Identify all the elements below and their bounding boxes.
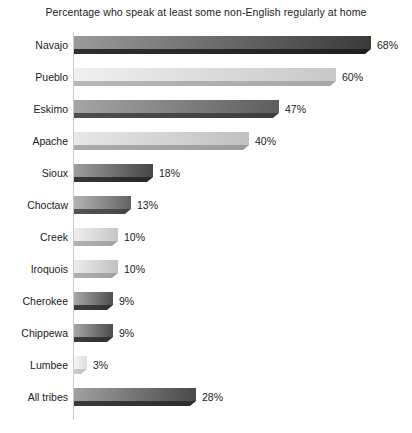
category-label: All tribes	[0, 390, 68, 404]
plot-area: Navajo68%Pueblo60%Eskimo47%Apache40%Siou…	[0, 30, 412, 430]
value-label: 9%	[119, 327, 134, 340]
category-label: Cherokee	[0, 294, 68, 308]
bar-row: All tribes28%	[0, 388, 412, 420]
category-label: Pueblo	[0, 70, 68, 84]
bar[interactable]	[74, 292, 114, 311]
value-label: 18%	[159, 167, 180, 180]
value-label: 60%	[342, 71, 363, 84]
value-label: 28%	[202, 391, 223, 404]
bar[interactable]	[74, 164, 154, 183]
category-label: Creek	[0, 230, 68, 244]
bar[interactable]	[74, 260, 119, 279]
category-label: Sioux	[0, 166, 68, 180]
bar-row: Creek10%	[0, 228, 412, 260]
bar-row: Choctaw13%	[0, 196, 412, 228]
value-label: 10%	[124, 231, 145, 244]
bar-row: Chippewa9%	[0, 324, 412, 356]
bar-row: Iroquois10%	[0, 260, 412, 292]
bar[interactable]	[74, 68, 337, 87]
bar-row: Navajo68%	[0, 36, 412, 68]
bar-row: Eskimo47%	[0, 100, 412, 132]
bar[interactable]	[74, 100, 280, 119]
value-label: 47%	[285, 103, 306, 116]
bar-row: Pueblo60%	[0, 68, 412, 100]
bar-row: Lumbee3%	[0, 356, 412, 388]
bar-row: Sioux18%	[0, 164, 412, 196]
category-label: Choctaw	[0, 198, 68, 212]
category-label: Eskimo	[0, 102, 68, 116]
bar[interactable]	[74, 228, 119, 247]
category-label: Chippewa	[0, 326, 68, 340]
bar[interactable]	[74, 388, 197, 407]
bar-chart: Percentage who speak at least some non-E…	[0, 0, 412, 433]
bar[interactable]	[74, 356, 88, 375]
bar[interactable]	[74, 196, 132, 215]
value-label: 10%	[124, 263, 145, 276]
value-label: 40%	[255, 135, 276, 148]
chart-title: Percentage who speak at least some non-E…	[0, 6, 412, 18]
bar[interactable]	[74, 132, 250, 151]
category-label: Apache	[0, 134, 68, 148]
category-label: Iroquois	[0, 262, 68, 276]
bar[interactable]	[74, 324, 114, 343]
value-label: 9%	[119, 295, 134, 308]
category-label: Navajo	[0, 38, 68, 52]
bar[interactable]	[74, 36, 372, 55]
value-label: 3%	[93, 359, 108, 372]
bar-row: Apache40%	[0, 132, 412, 164]
category-label: Lumbee	[0, 358, 68, 372]
value-label: 68%	[377, 39, 398, 52]
value-label: 13%	[137, 199, 158, 212]
bar-row: Cherokee9%	[0, 292, 412, 324]
